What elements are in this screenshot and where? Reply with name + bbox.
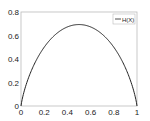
x-axis-ticks: 00.20.40.60.81 (19, 108, 140, 117)
y-tick-label: 0.2 (8, 79, 20, 88)
y-tick-label: 0.4 (8, 55, 20, 64)
plot-area (21, 12, 137, 106)
legend-label: H(X) (122, 17, 134, 23)
x-tick-label: 0.8 (108, 108, 120, 117)
y-tick-label: 0.8 (8, 8, 20, 17)
entropy-chart: 00.20.40.60.8 00.20.40.60.81 H(X) (0, 0, 150, 121)
x-tick-label: 0.6 (85, 108, 97, 117)
x-tick-label: 0 (19, 108, 24, 117)
y-axis-ticks: 00.20.40.60.8 (8, 8, 20, 111)
x-tick-label: 0.4 (62, 108, 74, 117)
x-tick-label: 0.2 (39, 108, 51, 117)
x-tick-label: 1 (135, 108, 140, 117)
legend: H(X) (113, 14, 135, 24)
y-tick-label: 0.6 (8, 32, 20, 41)
